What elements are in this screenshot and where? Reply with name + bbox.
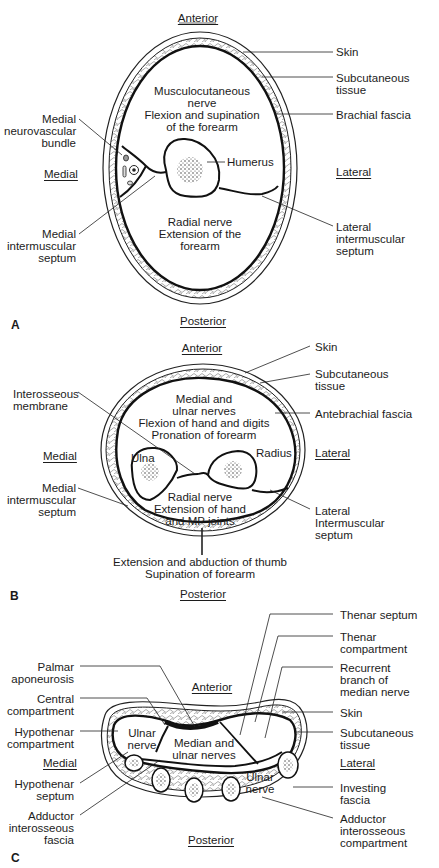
panel-a-posterior-label: Posterior xyxy=(178,315,228,327)
panel-c-hypothenar-nerve: Ulnar nerve xyxy=(122,727,162,751)
panel-b-posterior-compartment: Radial nerve Extension of hand and MP jo… xyxy=(150,491,250,527)
panel-c-adductor-compartment-label: Adductor interosseous compartment xyxy=(340,813,407,849)
panel-a-lateral-septum-label: Lateral intermuscular septum xyxy=(336,221,405,257)
panel-c-thenar-compartment-label: Thenar compartment xyxy=(340,631,407,655)
panel-c-thenar-septum-label: Thenar septum xyxy=(340,609,417,621)
panel-c-central-nerves: Median and ulnar nerves xyxy=(168,737,240,761)
panel-c-hypothenar-compartment-label: Hypothenar compartment xyxy=(4,726,74,750)
panel-b-ulna-label: Ulna xyxy=(131,452,155,464)
panel-b-lateral-septum-label: Lateral Intermuscular septum xyxy=(315,505,385,541)
panel-a-anterior-compartment: Musculocutaneous nerve Flexion and supin… xyxy=(132,85,272,133)
panel-c-adductor-fascia-label: Adductor interosseous fascia xyxy=(4,810,74,846)
panel-b-subcutaneous-label: Subcutaneous tissue xyxy=(315,368,389,392)
panel-a-posterior-compartment: Radial nerve Extension of the forearm xyxy=(145,216,255,252)
panel-b-skin-label: Skin xyxy=(315,341,337,353)
panel-b-fascia-label: Antebrachial fascia xyxy=(315,408,412,420)
panel-c-medial-label: Medial xyxy=(43,757,77,769)
panel-c-adductor-nerve: Ulnar nerve xyxy=(240,771,280,795)
panel-c-central-compartment-label: Central compartment xyxy=(4,693,74,717)
panel-a-medial-label: Medial xyxy=(44,168,78,180)
humerus-marrow xyxy=(177,157,203,183)
panel-c-lateral-label: Lateral xyxy=(340,757,375,769)
panel-a-subcutaneous-label: Subcutaneous tissue xyxy=(336,72,410,96)
panel-b-anterior-label: Anterior xyxy=(178,342,226,354)
panel-c-posterior-label: Posterior xyxy=(186,834,236,846)
panel-a-anterior-label: Anterior xyxy=(176,12,220,24)
panel-b-thumb-compartment: Extension and abduction of thumb Supinat… xyxy=(110,556,290,580)
panel-a-humerus-label: Humerus xyxy=(227,156,274,168)
panel-b-posterior-label: Posterior xyxy=(178,588,228,600)
panel-c-anterior-label: Anterior xyxy=(188,681,236,693)
panel-b-lateral-label: Lateral xyxy=(315,447,350,459)
panel-a-letter: A xyxy=(11,318,20,332)
panel-a-fascia-label: Brachial fascia xyxy=(336,109,411,121)
panel-b-medial-label: Medial xyxy=(43,450,77,462)
panel-c-recurrent-branch-label: Recurrent branch of median nerve xyxy=(340,662,410,698)
panel-b-letter: B xyxy=(10,589,19,603)
panel-c-skin-label: Skin xyxy=(340,707,362,719)
panel-c-cross-section xyxy=(80,614,333,818)
panel-c-investing-fascia-label: Investing fascia xyxy=(340,782,386,806)
panel-b-medial-septum-label: Medial intermuscular septum xyxy=(4,482,76,518)
panel-c-hypothenar-septum-label: Hypothenar septum xyxy=(4,778,74,802)
panel-a-lateral-label: Lateral xyxy=(336,166,371,178)
panel-a-skin-label: Skin xyxy=(336,46,358,58)
panel-b-interosseous-label: Interosseous membrane xyxy=(13,388,79,412)
panel-a-neurovascular-label: Medial neurovascular bundle xyxy=(4,113,76,149)
panel-a-cross-section xyxy=(79,23,333,304)
panel-b-anterior-compartment: Medial and ulnar nerves Flexion of hand … xyxy=(134,393,274,441)
panel-c-subcutaneous-label: Subcutaneous tissue xyxy=(340,727,414,751)
panel-c-palmar-aponeurosis-label: Palmar aponeurosis xyxy=(4,661,74,685)
panel-c-letter: C xyxy=(11,851,20,865)
panel-b-radius-label: Radius xyxy=(256,447,292,459)
panel-a-medial-septum-label: Medial intermuscular septum xyxy=(4,228,76,264)
